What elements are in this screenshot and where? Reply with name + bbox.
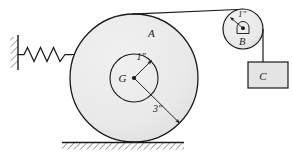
outer-radius-label: 3″ — [152, 103, 163, 114]
block-c: C — [248, 62, 288, 88]
block-c-body — [248, 62, 288, 88]
cord-wheel-to-pulley — [132, 9, 243, 14]
spring — [18, 48, 72, 62]
pulley-b-label: B — [239, 36, 246, 47]
center-g-label: G — [119, 72, 127, 84]
figure-canvas: 1″ 3″ A G 1″ B C — [0, 0, 292, 157]
pulley-b-radius-label: 1″ — [238, 9, 247, 19]
wall-hatching — [11, 37, 19, 68]
mechanics-figure: 1″ 3″ A G 1″ B C — [0, 0, 292, 157]
block-c-label: C — [259, 70, 267, 82]
wheel-a-label: A — [147, 27, 155, 39]
ground-hatching — [62, 143, 184, 150]
spring-coils — [18, 48, 72, 62]
hub-radius-label: 1″ — [137, 51, 147, 62]
ground-surface — [62, 143, 184, 150]
fixed-wall — [11, 35, 19, 70]
pulley-b: 1″ B — [223, 9, 263, 49]
